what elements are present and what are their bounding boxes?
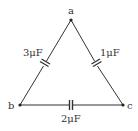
node-c-dot <box>121 103 124 106</box>
node-c-label: c <box>127 100 133 111</box>
capacitor-a-b-value: 3μF <box>23 47 43 58</box>
node-a-dot <box>69 18 72 21</box>
node-b-dot <box>18 103 21 106</box>
node-a-label: a <box>68 5 74 16</box>
capacitor-a-b-3uF <box>40 59 50 67</box>
node-b-label: b <box>8 100 14 111</box>
capacitor-b-c-2uF <box>70 100 73 110</box>
wire-a-b-upper <box>47 20 72 61</box>
wire-a-b-lower <box>20 66 44 105</box>
capacitor-b-c-value: 2μF <box>61 113 81 124</box>
capacitor-a-c-value: 1μF <box>100 47 120 58</box>
wire-a-c-lower <box>98 66 124 105</box>
capacitor-a-c-1uF <box>92 59 102 67</box>
wire-a-c-upper <box>71 20 95 61</box>
capacitor-triangle-diagram: a b c 3μF 1μF 2μF <box>0 0 138 131</box>
